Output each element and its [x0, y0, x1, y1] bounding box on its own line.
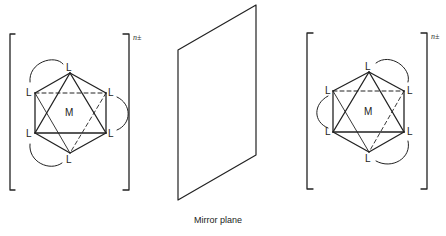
chelate-arc: [117, 97, 128, 130]
mirror-plane: [178, 5, 256, 200]
chelate-arc: [317, 96, 328, 128]
chelate-arc: [30, 144, 62, 166]
left-bracket-open: [10, 34, 15, 190]
ligand-label: L: [66, 62, 72, 73]
ligand-label: L: [108, 128, 114, 139]
chelate-arc: [376, 141, 409, 164]
ligand-label: L: [325, 126, 331, 137]
metal-label: M: [65, 107, 73, 118]
ligand-label: L: [407, 85, 413, 96]
ligand-label: L: [365, 153, 371, 164]
ligand-label: L: [108, 87, 114, 98]
ligand-label: L: [26, 87, 32, 98]
right-bracket-close: [421, 33, 427, 189]
charge-label: n±: [133, 33, 142, 42]
ligand-label: L: [407, 126, 413, 137]
ligand-label: L: [325, 85, 331, 96]
right-bracket-open: [307, 33, 313, 189]
ligand-label: L: [26, 128, 32, 139]
mirror-image-diagram: L L L L L L M n± L L L L L L M n± Mirror…: [0, 0, 446, 236]
caption: Mirror plane: [194, 215, 242, 225]
charge-label: n±: [431, 32, 440, 41]
ligand-label: L: [365, 61, 371, 72]
chelate-arc: [30, 60, 63, 82]
metal-label: M: [364, 106, 372, 117]
ligand-label: L: [66, 154, 72, 165]
